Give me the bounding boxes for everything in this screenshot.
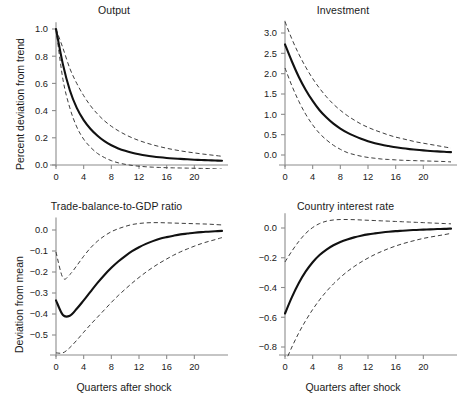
series-lower-band — [285, 233, 451, 362]
x-tick-label: 4 — [81, 172, 86, 182]
x-tick-label: 20 — [418, 362, 428, 372]
panel-output: Output Percent deviation from trend 0481… — [0, 0, 229, 200]
x-tick-label: 16 — [161, 362, 171, 372]
series-upper-band — [285, 22, 451, 148]
plot-area-investment: 0481216200.00.51.01.52.02.53.0 — [229, 0, 458, 200]
y-tick-label: 0.0 — [35, 160, 48, 170]
series-upper-band — [285, 219, 451, 261]
y-tick-label: −0.2 — [259, 253, 277, 263]
y-tick-label: −0.5 — [30, 330, 48, 340]
x-tick-label: 20 — [189, 172, 199, 182]
series-upper-band — [56, 223, 222, 280]
y-tick-label: 2.0 — [264, 69, 277, 79]
y-tick-label: 1.0 — [35, 24, 48, 34]
x-tick-label: 20 — [418, 172, 428, 182]
series-mean — [285, 229, 451, 314]
x-tick-label: 0 — [282, 172, 287, 182]
x-tick-label: 12 — [363, 172, 373, 182]
plot-area-output: 0481216200.00.20.40.60.81.0 — [0, 0, 229, 200]
plot-area-trade-balance: 048121620−0.5−0.4−0.3−0.2−0.10.0 — [0, 198, 229, 404]
impulse-response-figure: Output Percent deviation from trend 0481… — [0, 0, 458, 404]
x-tick-label: 8 — [109, 362, 114, 372]
series-lower-band — [56, 29, 222, 169]
y-tick-label: 2.5 — [264, 49, 277, 59]
y-tick-label: −0.8 — [259, 342, 277, 352]
x-tick-label: 0 — [282, 362, 287, 372]
y-tick-label: −0.4 — [259, 283, 277, 293]
plot-area-country-interest-rate: 048121620−0.8−0.6−0.4−0.20.0 — [229, 198, 458, 404]
y-tick-label: −0.4 — [30, 309, 48, 319]
y-tick-label: −0.3 — [30, 288, 48, 298]
x-tick-label: 16 — [390, 362, 400, 372]
y-tick-label: −0.2 — [30, 267, 48, 277]
x-tick-label: 16 — [161, 172, 171, 182]
x-tick-label: 0 — [53, 362, 58, 372]
y-tick-label: 0.0 — [35, 225, 48, 235]
panel-investment: Investment 0481216200.00.51.01.52.02.53.… — [229, 0, 458, 200]
x-tick-label: 8 — [338, 362, 343, 372]
y-tick-label: 1.0 — [264, 110, 277, 120]
x-tick-label: 8 — [109, 172, 114, 182]
y-tick-label: −0.1 — [30, 246, 48, 256]
x-tick-label: 0 — [53, 172, 58, 182]
y-tick-label: 0.4 — [35, 106, 48, 116]
x-tick-label: 4 — [81, 362, 86, 372]
series-mean — [56, 29, 222, 161]
x-tick-label: 12 — [134, 172, 144, 182]
series-mean — [285, 44, 451, 152]
y-tick-label: 0.0 — [264, 223, 277, 233]
panel-country-interest-rate: Country interest rate Quarters after sho… — [229, 198, 458, 404]
y-tick-label: 3.0 — [264, 28, 277, 38]
y-tick-label: 0.2 — [35, 133, 48, 143]
series-lower-band — [56, 238, 222, 354]
y-tick-label: 0.8 — [35, 52, 48, 62]
x-tick-label: 4 — [310, 362, 315, 372]
x-tick-label: 4 — [310, 172, 315, 182]
x-tick-label: 8 — [338, 172, 343, 182]
series-mean — [56, 231, 222, 317]
y-tick-label: 0.5 — [264, 130, 277, 140]
y-tick-label: 1.5 — [264, 89, 277, 99]
y-tick-label: 0.0 — [264, 150, 277, 160]
x-tick-label: 12 — [134, 362, 144, 372]
x-tick-label: 20 — [189, 362, 199, 372]
series-lower-band — [285, 68, 451, 162]
x-tick-label: 16 — [390, 172, 400, 182]
x-tick-label: 12 — [363, 362, 373, 372]
series-upper-band — [56, 29, 222, 156]
y-tick-label: 0.6 — [35, 79, 48, 89]
y-tick-label: −0.6 — [259, 313, 277, 323]
panel-trade-balance: Trade-balance-to-GDP ratio Deviation fro… — [0, 198, 229, 404]
